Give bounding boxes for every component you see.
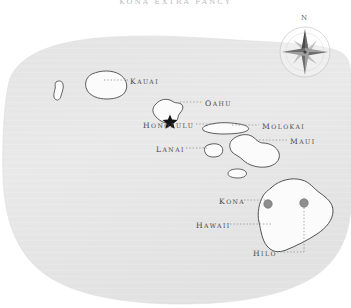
label-oahu-cap: O bbox=[205, 99, 213, 108]
label-kauai-rest: AUAI bbox=[137, 78, 159, 85]
label-hawaii-rest: AWAII bbox=[204, 222, 231, 229]
compass-rose-icon bbox=[280, 27, 330, 77]
label-hawaii-cap: H bbox=[196, 221, 204, 230]
label-honolulu-cap: H bbox=[143, 121, 151, 130]
island-molokai bbox=[203, 123, 249, 134]
label-hilo: HILO bbox=[253, 250, 277, 258]
label-molokai-rest: OLOKAI bbox=[271, 123, 305, 130]
island-kahoolawe bbox=[228, 169, 247, 178]
island-kauai bbox=[86, 71, 127, 99]
marker-kona-dot[interactable] bbox=[264, 200, 272, 208]
label-lanai-rest: ANAI bbox=[163, 146, 185, 153]
map-canvas bbox=[0, 0, 351, 308]
marker-hilo-dot[interactable] bbox=[300, 199, 308, 207]
label-kona: KONA bbox=[219, 198, 245, 206]
label-maui: MAUI bbox=[290, 138, 316, 146]
label-lanai: LANAI bbox=[156, 146, 185, 154]
label-honolulu: HONOLULU bbox=[143, 122, 194, 130]
label-oahu-rest: AHU bbox=[213, 100, 232, 107]
hawaii-map: KONA EXTRA FANCY bbox=[0, 0, 351, 308]
label-honolulu-rest: ONOLULU bbox=[151, 122, 194, 129]
label-molokai-cap: M bbox=[262, 122, 271, 131]
label-molokai: MOLOKAI bbox=[262, 123, 305, 131]
label-hilo-rest: ILO bbox=[261, 250, 277, 257]
label-maui-cap: M bbox=[290, 137, 299, 146]
label-kona-rest: ONA bbox=[226, 198, 245, 205]
label-hawaii: HAWAII bbox=[196, 222, 231, 230]
island-lanai bbox=[205, 144, 223, 157]
label-maui-rest: AUI bbox=[299, 138, 315, 145]
compass-north-label: N bbox=[301, 14, 307, 22]
label-kauai: KAUAI bbox=[130, 78, 159, 86]
label-oahu: OAHU bbox=[205, 100, 232, 108]
label-hilo-cap: H bbox=[253, 249, 261, 258]
